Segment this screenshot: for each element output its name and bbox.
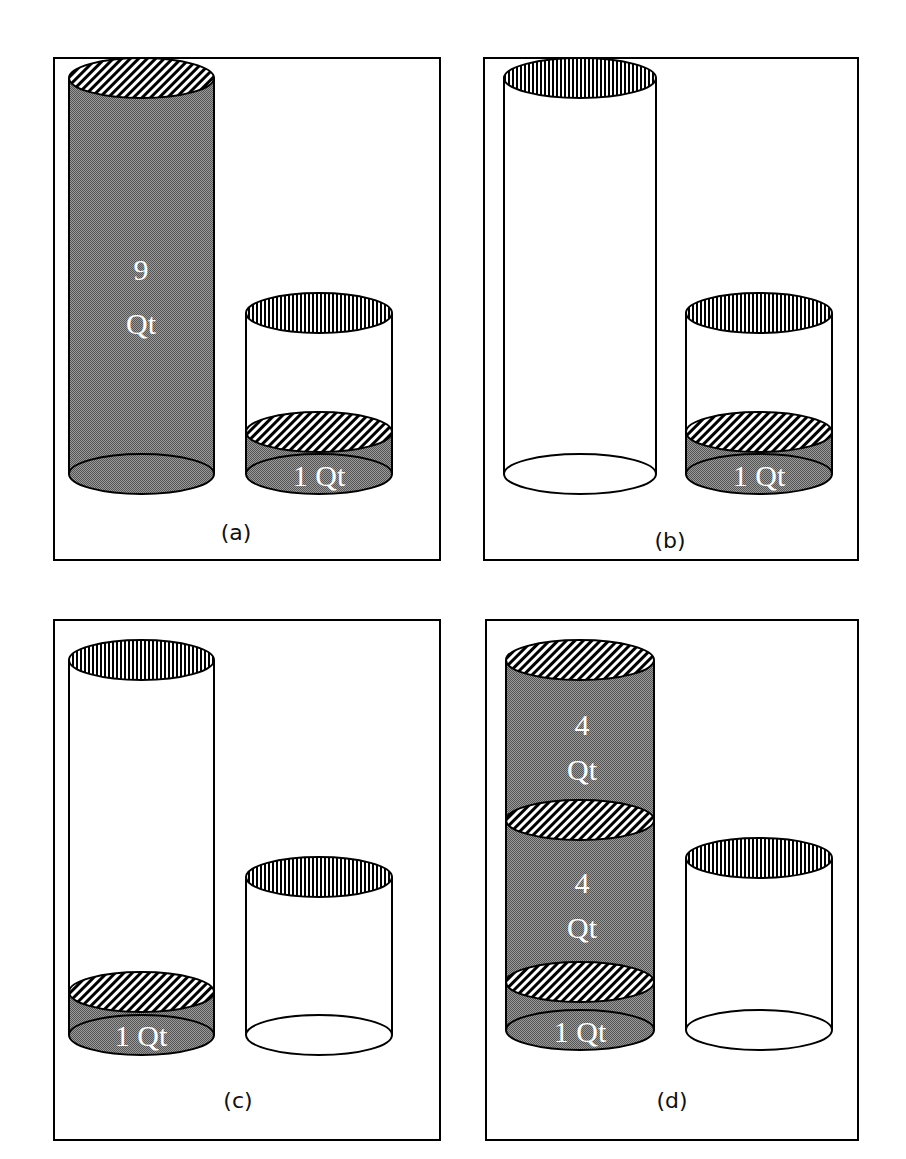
- tall-container: 4 Qt 4 Qt 1 Qt: [506, 640, 654, 1050]
- liquid-surface: [686, 412, 832, 452]
- volume-label: 1 Qt: [554, 1015, 607, 1048]
- liquid-surface: [506, 640, 654, 680]
- panel-caption: (c): [223, 1088, 252, 1113]
- container-opening: [686, 293, 832, 333]
- volume-unit: Qt: [567, 753, 598, 786]
- volume-label: 4: [575, 708, 590, 741]
- container-opening: [69, 640, 214, 680]
- liquid-surface: [69, 972, 214, 1012]
- panel-c: 1 Qt (c): [54, 620, 440, 1140]
- volume-label: 9: [134, 253, 149, 286]
- layer-boundary: [506, 800, 654, 840]
- panel-caption: (d): [656, 1088, 687, 1113]
- container-opening: [686, 838, 832, 878]
- volume-label: 1 Qt: [115, 1019, 168, 1052]
- container-opening: [246, 293, 392, 333]
- layer-boundary: [506, 962, 654, 1002]
- panel-caption: (b): [654, 528, 685, 553]
- liquid-surface: [69, 58, 214, 98]
- container-opening: [504, 58, 656, 98]
- cylinder-diagram: 9 Qt 1 Qt (a) 1: [0, 0, 906, 1159]
- panel-d: 4 Qt 4 Qt 1 Qt (d): [486, 620, 858, 1140]
- volume-unit: Qt: [126, 307, 157, 340]
- volume-label: 1 Qt: [733, 459, 786, 492]
- panel-caption: (a): [221, 520, 252, 545]
- panel-a: 9 Qt 1 Qt (a): [54, 58, 440, 560]
- volume-label: 1 Qt: [293, 459, 346, 492]
- liquid-surface: [246, 412, 392, 452]
- tall-container: 9 Qt: [69, 58, 214, 494]
- volume-label: 4: [575, 866, 590, 899]
- volume-unit: Qt: [567, 911, 598, 944]
- container-opening: [246, 857, 392, 897]
- panel-b: 1 Qt (b): [484, 58, 858, 560]
